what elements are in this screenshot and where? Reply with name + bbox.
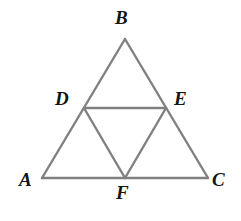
vertex-label-C: C bbox=[212, 170, 225, 189]
vertex-label-B: B bbox=[115, 8, 128, 27]
vertex-label-A: A bbox=[19, 170, 32, 189]
vertex-label-F: F bbox=[116, 183, 129, 202]
vertex-label-E: E bbox=[174, 89, 187, 108]
geometry-figure: B D E A C F bbox=[0, 0, 241, 221]
vertex-label-D: D bbox=[55, 89, 69, 108]
